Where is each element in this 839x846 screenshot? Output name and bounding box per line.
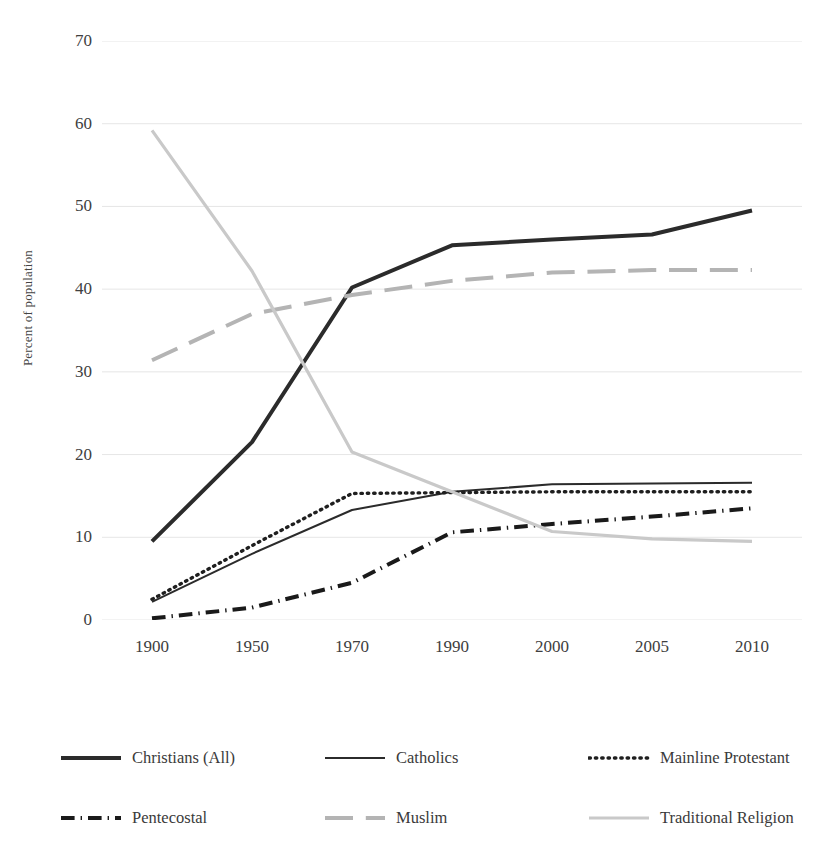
- x-tick-label-2010: 2010: [702, 637, 802, 657]
- legend-swatch-icon: [324, 812, 386, 824]
- legend-swatch-icon: [588, 752, 650, 764]
- legend-swatch-icon: [324, 752, 386, 764]
- y-tick-label-20: 20: [40, 446, 92, 463]
- x-tick-label-1900: 1900: [102, 637, 202, 657]
- series-line-catholics: [152, 483, 752, 602]
- y-axis-title: Percent of population: [20, 198, 36, 418]
- legend-item-pentecostal[interactable]: Pentecostal: [60, 808, 324, 828]
- legend-item-muslim[interactable]: Muslim: [324, 808, 588, 828]
- legend-label: Christians (All): [132, 748, 235, 768]
- y-tick-label-0: 0: [40, 611, 92, 628]
- y-tick-label-60: 60: [40, 115, 92, 132]
- series-line-pentecostal: [152, 508, 752, 618]
- y-tick-label-70: 70: [40, 32, 92, 49]
- line-chart: Percent of population 706050403020100 19…: [0, 0, 839, 846]
- legend-label: Traditional Religion: [660, 808, 794, 828]
- legend-label: Muslim: [396, 808, 447, 828]
- y-tick-label-10: 10: [40, 528, 92, 545]
- plot-area: [102, 41, 802, 620]
- legend-swatch-icon: [60, 812, 122, 824]
- y-tick-label-30: 30: [40, 363, 92, 380]
- x-tick-label-2000: 2000: [502, 637, 602, 657]
- series-line-muslim: [152, 270, 752, 360]
- series-line-mainline-protestant: [152, 492, 752, 600]
- x-tick-label-1950: 1950: [202, 637, 302, 657]
- chart-legend: Christians (All)CatholicsMainline Protes…: [60, 728, 830, 846]
- x-tick-label-1970: 1970: [302, 637, 402, 657]
- legend-label: Pentecostal: [132, 808, 207, 828]
- legend-item-mainline-protestant[interactable]: Mainline Protestant: [588, 748, 830, 768]
- legend-swatch-icon: [588, 812, 650, 824]
- y-tick-label-50: 50: [40, 197, 92, 214]
- legend-item-catholics[interactable]: Catholics: [324, 748, 588, 768]
- legend-label: Mainline Protestant: [660, 748, 790, 768]
- series-line-traditional-religion: [152, 130, 752, 541]
- x-tick-label-2005: 2005: [602, 637, 702, 657]
- legend-item-christians-all[interactable]: Christians (All): [60, 748, 324, 768]
- legend-label: Catholics: [396, 748, 458, 768]
- gridlines: [102, 41, 802, 620]
- data-series-layer: [152, 130, 752, 618]
- plot-svg: [102, 41, 802, 620]
- legend-item-traditional-religion[interactable]: Traditional Religion: [588, 808, 830, 828]
- y-tick-label-40: 40: [40, 280, 92, 297]
- legend-swatch-icon: [60, 752, 122, 764]
- x-tick-label-1990: 1990: [402, 637, 502, 657]
